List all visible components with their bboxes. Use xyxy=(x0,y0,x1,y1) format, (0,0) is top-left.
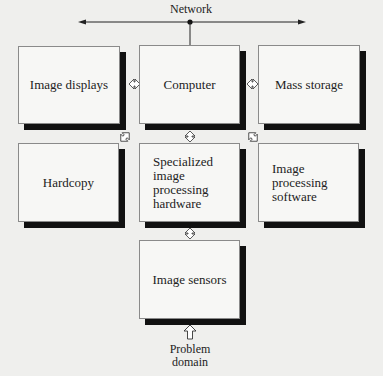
diagonal-double-arrow-icon xyxy=(117,129,133,145)
hardcopy-label: Hardcopy xyxy=(43,176,94,190)
mass-storage-box: Mass storage xyxy=(258,45,360,124)
image-displays-label: Image displays xyxy=(30,78,108,92)
specialized-hardware-label: Specialized image processing hardware xyxy=(153,155,239,211)
up-arrow-icon xyxy=(184,325,196,339)
double-arrow-icon xyxy=(247,79,258,89)
processing-software-label: Image processing software xyxy=(272,162,358,204)
mass-storage-label: Mass storage xyxy=(275,78,343,92)
image-sensors-box: Image sensors xyxy=(139,240,240,319)
network-bus xyxy=(78,19,306,45)
double-arrow-icon xyxy=(185,228,195,239)
problem-domain-label: Problem domain xyxy=(150,343,230,369)
specialized-hardware-box: Specialized image processing hardware xyxy=(139,143,240,222)
computer-label: Computer xyxy=(164,78,216,92)
image-sensors-label: Image sensors xyxy=(152,273,226,287)
double-arrow-icon xyxy=(185,131,195,142)
computer-box: Computer xyxy=(139,45,240,124)
hardcopy-box: Hardcopy xyxy=(18,143,119,222)
processing-software-box: Image processing software xyxy=(258,143,359,222)
image-displays-box: Image displays xyxy=(18,46,120,124)
